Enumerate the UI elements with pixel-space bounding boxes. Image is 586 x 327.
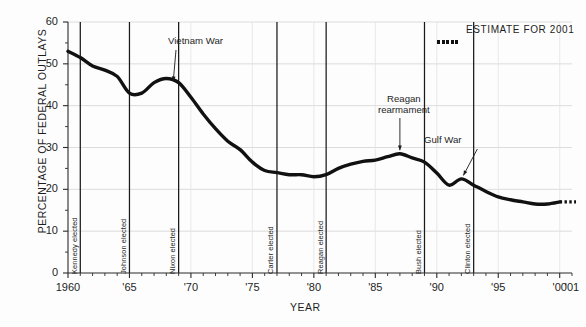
chart-plot-area [0,0,586,327]
annotation-arrows [172,50,478,175]
event-line-label-nixon: Nixon elected [168,228,177,274]
event-line-label-johnson: Johnson elected [119,219,128,274]
x-tick-label: '80 [294,281,334,293]
event-line-label-reagan: Reagan elected [316,221,325,274]
event-line-label-clinton: Clinton elected [463,224,472,274]
x-tick-label: '85 [355,281,395,293]
x-axis-title: YEAR [290,301,321,313]
x-tick-label: '95 [478,281,518,293]
y-tick-label: 10 [32,224,58,236]
y-tick-label: 60 [32,15,58,27]
x-tick-label: '01 [552,281,586,293]
annotation-gulf-war: Gulf War [424,134,462,145]
y-tick-label: 30 [32,141,58,153]
estimate-legend-marker [437,30,460,34]
event-line-label-carter: Carter elected [266,226,275,274]
y-tick-label: 40 [32,99,58,111]
annotation-reagan-rearmament: Reagan rearmament [378,93,430,115]
y-tick-label: 0 [32,266,58,278]
chart-container: PERCENTAGE OF FEDERAL OUTLAYS 0102030405… [0,0,586,327]
annotation-vietnam-war: Vietnam War [168,35,223,46]
event-line-label-kennedy: Kennedy elected [70,217,79,274]
x-tick-label: '90 [417,281,457,293]
estimate-legend-label: ESTIMATE FOR 2001 [466,24,574,35]
annotation-reagan-line2: rearmament [378,104,430,115]
x-tick-label: '70 [171,281,211,293]
annotation-reagan-line1: Reagan [378,93,430,104]
x-tick-label: 1960 [48,281,88,293]
x-tick-label: '75 [232,281,272,293]
data-line [68,51,576,204]
y-tick-label: 20 [32,182,58,194]
x-tick-label: '65 [109,281,149,293]
event-line-label-bush: Bush elected [414,230,423,274]
y-tick-label: 50 [32,57,58,69]
